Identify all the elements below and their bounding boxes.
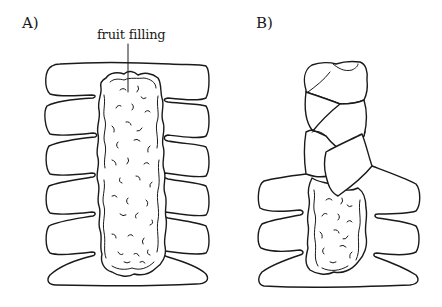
braided-pastry-diagram: A) fruit filling B) (0, 0, 442, 307)
panel-b-drawing (258, 62, 420, 287)
panel-a-drawing (45, 44, 209, 286)
fruit-filling-a (97, 71, 166, 276)
